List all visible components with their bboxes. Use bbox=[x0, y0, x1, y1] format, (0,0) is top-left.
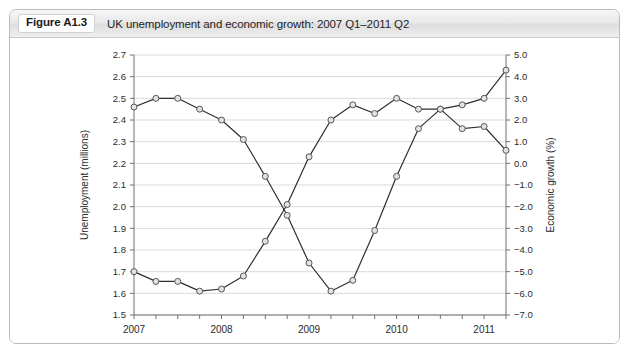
series-data-point bbox=[153, 95, 159, 101]
series-data-point bbox=[350, 277, 356, 283]
right-axis-tick-label: −5.0 bbox=[514, 266, 533, 277]
x-axis-year-label: 2009 bbox=[298, 324, 321, 335]
series-data-point bbox=[219, 117, 225, 123]
left-axis-tick-label: 1.7 bbox=[113, 266, 126, 277]
left-axis-title: Unemployment (millions) bbox=[79, 130, 90, 240]
left-axis-labels: 2.72.62.52.42.32.22.12.01.91.81.71.61.5 bbox=[113, 49, 126, 320]
series-data-point bbox=[262, 173, 268, 179]
line-chart: 2.72.62.52.42.32.22.12.01.91.81.71.61.5 … bbox=[10, 38, 620, 344]
series-data-point bbox=[262, 238, 268, 244]
series-data-point bbox=[459, 102, 465, 108]
series-data-point bbox=[481, 124, 487, 130]
series-data-point bbox=[394, 95, 400, 101]
x-axis-labels: 20072008200920102011 bbox=[123, 324, 495, 335]
left-axis-tick-label: 1.8 bbox=[113, 244, 126, 255]
series-data-point bbox=[503, 67, 509, 73]
gridlines bbox=[134, 55, 506, 315]
left-axis-tick-label: 2.3 bbox=[113, 136, 126, 147]
series-data-point bbox=[306, 260, 312, 266]
series-data-point bbox=[459, 126, 465, 132]
series-line bbox=[134, 98, 506, 291]
right-axis-tick-label: −4.0 bbox=[514, 244, 533, 255]
series-data-point bbox=[415, 126, 421, 132]
series-data-point bbox=[153, 278, 159, 284]
left-axis-tick-label: 1.6 bbox=[113, 288, 126, 299]
series-data-point bbox=[131, 104, 137, 110]
series-data-point bbox=[503, 147, 509, 153]
x-axis-year-label: 2011 bbox=[473, 324, 495, 335]
right-axis-labels: 5.04.03.02.01.00.0−1.0−2.0−3.0−4.0−5.0−6… bbox=[514, 49, 533, 320]
right-axis-title: Economic growth (%) bbox=[545, 137, 556, 232]
x-axis-year-label: 2010 bbox=[385, 324, 408, 335]
left-axis-tick-label: 2.6 bbox=[113, 71, 126, 82]
right-axis-tick-label: 4.0 bbox=[514, 71, 527, 82]
x-axis-ticks bbox=[134, 315, 506, 319]
right-axis-tick-label: 1.0 bbox=[514, 136, 527, 147]
series-line bbox=[134, 70, 506, 291]
series-data-point bbox=[240, 137, 246, 143]
right-axis-tick-label: −1.0 bbox=[514, 179, 533, 190]
chart-plot-area: 2.72.62.52.42.32.22.12.01.91.81.71.61.5 … bbox=[10, 38, 619, 344]
left-axis-tick-label: 1.5 bbox=[113, 309, 126, 320]
figure-title: UK unemployment and economic growth: 200… bbox=[107, 18, 409, 30]
figure-number-badge: Figure A1.3 bbox=[18, 14, 95, 33]
series-data-point bbox=[306, 154, 312, 160]
series-data-point bbox=[372, 228, 378, 234]
right-axis-tick-label: −2.0 bbox=[514, 201, 533, 212]
figure-card: Figure A1.3 UK unemployment and economic… bbox=[9, 9, 620, 344]
x-axis-year-label: 2008 bbox=[210, 324, 233, 335]
left-axis-tick-label: 2.1 bbox=[113, 179, 126, 190]
figure-header: Figure A1.3 UK unemployment and economic… bbox=[10, 10, 619, 38]
series-data-point bbox=[284, 212, 290, 218]
x-axis-year-label: 2007 bbox=[123, 324, 146, 335]
left-axis-tick-label: 2.5 bbox=[113, 93, 126, 104]
series-data-point bbox=[350, 102, 356, 108]
series-data-point bbox=[197, 288, 203, 294]
series-data-point bbox=[394, 173, 400, 179]
right-axis-tick-label: −6.0 bbox=[514, 288, 533, 299]
left-axis-tick-label: 2.4 bbox=[113, 114, 126, 125]
right-axis-tick-label: 3.0 bbox=[514, 93, 527, 104]
data-series bbox=[131, 67, 509, 294]
right-axis-tick-label: 2.0 bbox=[514, 114, 527, 125]
series-data-point bbox=[175, 278, 181, 284]
series-data-point bbox=[284, 202, 290, 208]
left-axis-tick-label: 1.9 bbox=[113, 223, 126, 234]
left-axis-tick-label: 2.0 bbox=[113, 201, 126, 212]
right-axis-tick-label: 5.0 bbox=[514, 49, 527, 60]
series-data-point bbox=[437, 106, 443, 112]
series-data-point bbox=[219, 286, 225, 292]
series-data-point bbox=[240, 273, 246, 279]
series-data-point bbox=[372, 111, 378, 117]
right-axis-tick-label: −7.0 bbox=[514, 309, 533, 320]
right-axis-tick-label: −3.0 bbox=[514, 223, 533, 234]
left-axis-tick-label: 2.2 bbox=[113, 158, 126, 169]
left-axis-tick-label: 2.7 bbox=[113, 49, 126, 60]
series-data-point bbox=[328, 288, 334, 294]
series-data-point bbox=[328, 117, 334, 123]
series-data-point bbox=[481, 95, 487, 101]
right-axis-tick-label: 0.0 bbox=[514, 158, 527, 169]
series-data-point bbox=[175, 95, 181, 101]
series-data-point bbox=[197, 106, 203, 112]
series-data-point bbox=[131, 269, 137, 275]
series-data-point bbox=[415, 106, 421, 112]
